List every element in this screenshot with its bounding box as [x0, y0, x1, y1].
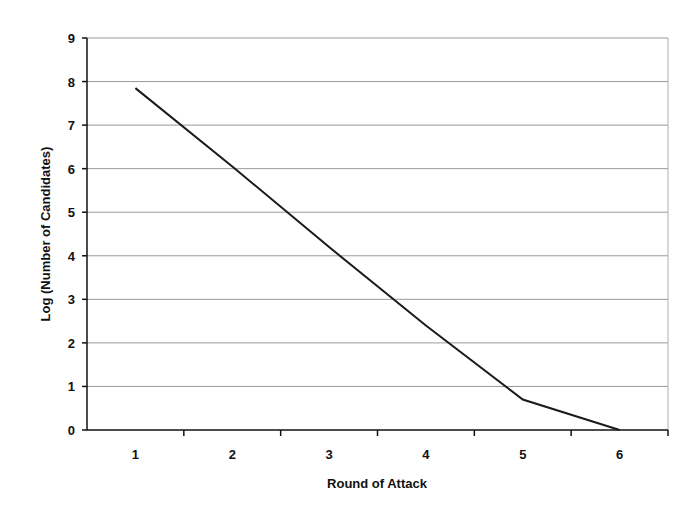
- y-axis-title: Log (Number of Candidates): [38, 147, 53, 322]
- y-tick-label: 2: [68, 336, 75, 351]
- y-tick-label: 8: [68, 75, 75, 90]
- x-axis-title: Round of Attack: [327, 476, 428, 491]
- y-tick-label: 6: [68, 162, 75, 177]
- gridlines: [87, 38, 668, 386]
- x-tick-label: 4: [422, 447, 430, 462]
- y-axis-ticks: 0123456789: [68, 31, 87, 438]
- line-chart: 0123456789 123456 Round of Attack Log (N…: [0, 0, 700, 513]
- y-tick-label: 4: [68, 249, 76, 264]
- y-tick-label: 9: [68, 31, 75, 46]
- y-tick-label: 0: [68, 423, 75, 438]
- x-tick-label: 3: [325, 447, 332, 462]
- x-tick-label: 1: [132, 447, 139, 462]
- y-tick-label: 1: [68, 379, 75, 394]
- x-tick-label: 2: [229, 447, 236, 462]
- y-tick-label: 3: [68, 292, 75, 307]
- x-tick-label: 6: [616, 447, 623, 462]
- x-tick-label: 5: [519, 447, 526, 462]
- x-axis-ticks: 123456: [132, 430, 668, 462]
- data-line: [135, 88, 619, 430]
- y-tick-label: 5: [68, 205, 75, 220]
- axes: [87, 38, 668, 430]
- y-tick-label: 7: [68, 118, 75, 133]
